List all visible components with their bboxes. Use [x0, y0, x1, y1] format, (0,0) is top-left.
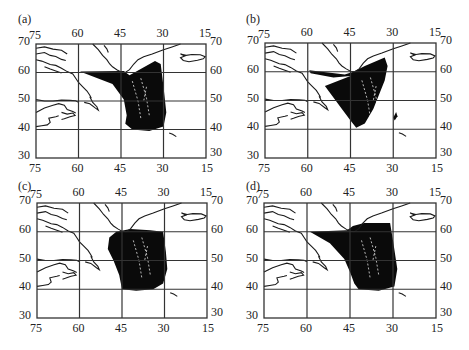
x-tick-bottom-15: 15	[202, 322, 214, 334]
y-tick-left-50: 50	[247, 92, 259, 104]
x-tick-top-60: 60	[300, 186, 312, 198]
y-tick-right-50: 50	[440, 92, 452, 104]
y-tick-left-70: 70	[19, 194, 31, 206]
y-tick-right-40: 40	[211, 280, 223, 292]
x-tick-top-45: 45	[344, 26, 356, 38]
x-tick-top-45: 45	[114, 27, 126, 39]
x-tick-top-30: 30	[386, 26, 398, 38]
x-tick-bottom-15: 15	[201, 162, 213, 174]
y-tick-right-50: 50	[210, 92, 222, 104]
x-tick-bottom-75: 75	[258, 162, 270, 174]
y-tick-right-70: 70	[440, 34, 452, 46]
coastline	[410, 213, 435, 221]
y-tick-left-30: 30	[246, 309, 258, 321]
coastline	[264, 276, 287, 287]
y-tick-left-60: 60	[19, 223, 31, 235]
x-tick-bottom-60: 60	[301, 162, 313, 174]
coastline	[264, 219, 320, 258]
x-tick-bottom-45: 45	[115, 322, 127, 334]
y-tick-left-30: 30	[18, 149, 30, 161]
y-tick-left-30: 30	[247, 149, 259, 161]
y-tick-left-70: 70	[246, 194, 258, 206]
y-tick-right-30: 30	[210, 146, 222, 158]
y-tick-left-50: 50	[18, 92, 30, 104]
x-tick-bottom-30: 30	[386, 162, 398, 174]
y-tick-right-60: 60	[211, 223, 223, 235]
x-tick-top-75: 75	[30, 188, 42, 200]
x-tick-bottom-30: 30	[157, 162, 169, 174]
y-tick-right-50: 50	[440, 252, 452, 264]
y-tick-right-30: 30	[440, 306, 452, 318]
y-tick-right-40: 40	[440, 120, 452, 132]
x-tick-top-75: 75	[258, 28, 270, 40]
coastline	[290, 272, 304, 279]
x-tick-top-75: 75	[257, 188, 269, 200]
y-tick-right-30: 30	[211, 306, 223, 318]
y-tick-left-60: 60	[246, 223, 258, 235]
coastline	[313, 256, 327, 270]
x-tick-bottom-30: 30	[158, 322, 170, 334]
x-tick-top-30: 30	[386, 186, 398, 198]
y-tick-right-40: 40	[440, 280, 452, 292]
x-tick-bottom-15: 15	[431, 322, 443, 334]
y-tick-right-70: 70	[440, 194, 452, 206]
y-tick-left-40: 40	[19, 280, 31, 292]
y-tick-right-40: 40	[210, 121, 222, 133]
x-tick-top-30: 30	[158, 186, 170, 198]
x-tick-bottom-60: 60	[73, 322, 85, 334]
x-tick-bottom-75: 75	[29, 162, 41, 174]
y-tick-left-40: 40	[247, 120, 259, 132]
y-tick-left-60: 60	[247, 63, 259, 75]
x-tick-bottom-45: 45	[343, 322, 355, 334]
x-tick-bottom-45: 45	[344, 162, 356, 174]
x-tick-bottom-60: 60	[300, 322, 312, 334]
y-tick-right-30: 30	[440, 146, 452, 158]
x-tick-top-75: 75	[29, 29, 41, 41]
coastline	[333, 204, 337, 211]
x-tick-bottom-60: 60	[72, 162, 84, 174]
y-tick-left-40: 40	[18, 121, 30, 133]
y-tick-right-70: 70	[211, 194, 223, 206]
coastline	[399, 293, 406, 297]
y-tick-right-50: 50	[211, 252, 223, 264]
map-plot-d	[0, 0, 469, 350]
x-tick-top-45: 45	[343, 186, 355, 198]
y-tick-left-50: 50	[246, 252, 258, 264]
x-tick-bottom-30: 30	[386, 322, 398, 334]
coastline	[264, 263, 304, 273]
y-tick-right-60: 60	[440, 223, 452, 235]
y-tick-left-70: 70	[18, 35, 30, 47]
x-tick-top-45: 45	[115, 186, 127, 198]
y-tick-left-60: 60	[18, 64, 30, 76]
x-tick-bottom-45: 45	[114, 162, 126, 174]
x-tick-top-30: 30	[157, 27, 169, 39]
y-tick-left-70: 70	[247, 34, 259, 46]
x-tick-top-60: 60	[73, 186, 85, 198]
y-tick-left-30: 30	[19, 309, 31, 321]
x-tick-bottom-15: 15	[431, 162, 443, 174]
x-tick-bottom-75: 75	[257, 322, 269, 334]
y-tick-right-60: 60	[210, 64, 222, 76]
y-tick-right-60: 60	[440, 63, 452, 75]
x-tick-top-60: 60	[301, 26, 313, 38]
y-tick-right-70: 70	[210, 35, 222, 47]
x-tick-bottom-75: 75	[30, 322, 42, 334]
x-tick-top-60: 60	[72, 27, 84, 39]
data-swath	[310, 223, 397, 291]
y-tick-left-40: 40	[246, 280, 258, 292]
y-tick-left-50: 50	[19, 252, 31, 264]
coastline	[264, 212, 294, 220]
